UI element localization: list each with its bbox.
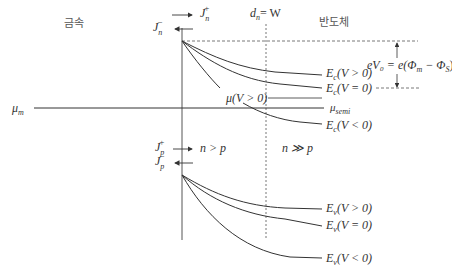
jp-minus-label: Jp−	[155, 151, 164, 171]
ev-curve-v-negative	[182, 175, 322, 258]
ec-label-v-positive: Ec(V > 0)	[325, 66, 372, 82]
ec-label-v-zero: Ec(V = 0)	[325, 81, 372, 97]
mu-biased-label: μ(V > 0)	[225, 91, 267, 105]
ec-curve-v-zero	[182, 41, 322, 88]
jn-plus-label: Jn+	[200, 3, 209, 23]
semiconductor-label: 반도체	[319, 16, 349, 29]
depletion-edge-label: dn= W	[250, 6, 282, 22]
mu-metal-label: μm	[11, 101, 24, 117]
jn-minus-label: Jn−	[153, 17, 162, 37]
ec-curve-v-negative-lower	[243, 103, 322, 124]
ev-label-v-negative: Ev(V < 0)	[325, 251, 372, 267]
mu-semi-label: μsemi	[329, 101, 350, 116]
ev-curve-v-positive	[182, 175, 322, 209]
carrier-label-bulk: n ≫ p	[282, 141, 313, 155]
band-diagram: 금속 반도체 dn= W Jn+ Jn− eV₀ = e(Φm − ΦS) Ec…	[0, 0, 452, 277]
ev-label-v-positive: Ev(V > 0)	[325, 201, 372, 217]
ev-curve-v-zero	[182, 175, 322, 226]
barrier-height-label: eV₀ = e(Φm − ΦS)	[367, 58, 452, 74]
ec-curve-v-negative-upper	[182, 41, 220, 88]
carrier-label-interface: n > p	[200, 141, 226, 155]
metal-label: 금속	[64, 17, 84, 30]
ec-label-v-negative: Ec(V < 0)	[325, 118, 372, 134]
ev-label-v-zero: Ev(V = 0)	[325, 218, 372, 234]
